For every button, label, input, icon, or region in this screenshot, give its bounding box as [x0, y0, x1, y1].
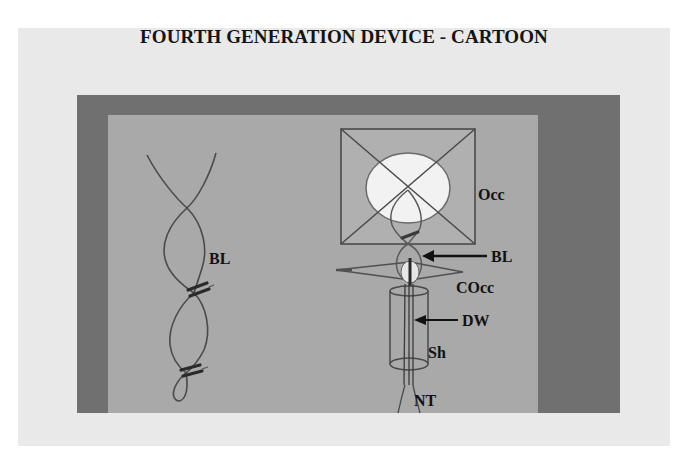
- left-clip-lower-tip: [202, 367, 208, 369]
- left-helix: [147, 153, 216, 401]
- cone-occluder: [336, 262, 463, 280]
- left-clip-upper-tip: [209, 285, 214, 287]
- label-bl-right: BL: [491, 249, 512, 265]
- label-dw: DW: [462, 313, 490, 329]
- label-bl-left: BL: [209, 251, 230, 267]
- left-clip-lower: [181, 365, 202, 376]
- diagram-artwork: [0, 0, 688, 455]
- occluder-box: [341, 129, 475, 244]
- label-sh: Sh: [428, 345, 446, 361]
- label-occ: Occ: [478, 187, 505, 203]
- arrow-dw: [414, 315, 458, 325]
- left-clip-upper: [188, 283, 209, 296]
- label-nt: NT: [414, 393, 436, 409]
- label-cocc: COcc: [456, 280, 494, 296]
- arrow-bl: [422, 250, 487, 262]
